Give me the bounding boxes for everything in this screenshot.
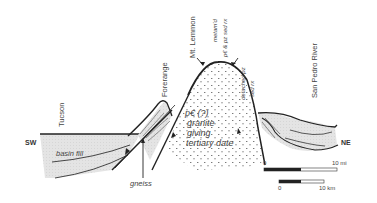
label-ne: NE bbox=[341, 139, 351, 146]
cross-section-diagram: SW NE Tucson Forerange Mt. Lemmon San Pe… bbox=[0, 0, 377, 203]
label-detached-1: detached pz bbox=[240, 67, 246, 100]
scale-bar-km bbox=[279, 180, 324, 183]
scale-bar-miles bbox=[264, 168, 337, 171]
granite-core bbox=[165, 62, 265, 170]
label-core-1: p€ (?) bbox=[185, 108, 209, 118]
detached-sediments bbox=[258, 113, 338, 151]
basin-fill-sw bbox=[40, 134, 140, 178]
label-core-2: granite bbox=[187, 118, 215, 128]
scale-km-start: 0 bbox=[278, 185, 281, 191]
label-gneiss: gneiss bbox=[130, 180, 152, 188]
label-core-3: giving bbox=[187, 128, 211, 138]
label-metamorphosed-1: metam'd bbox=[212, 19, 218, 42]
label-forerange: Forerange bbox=[161, 62, 169, 97]
scale-miles-start: 0 bbox=[263, 160, 266, 166]
label-mt-lemmon: Mt. Lemmon bbox=[189, 16, 197, 58]
label-tucson: Tucson bbox=[58, 103, 66, 127]
scale-km-end: 10 km bbox=[319, 185, 335, 191]
label-basin-fill: basin fill bbox=[56, 150, 83, 158]
label-san-pedro-river: San Pedro River bbox=[311, 43, 319, 98]
label-core-4: tertiary date bbox=[186, 138, 234, 148]
label-detached-2: sed rx bbox=[249, 81, 255, 97]
scale-miles-end: 10 mi bbox=[332, 160, 347, 166]
label-sw: SW bbox=[25, 139, 36, 146]
forerange-gneiss bbox=[128, 101, 172, 160]
label-metamorphosed-2: p€ & pz sed rx bbox=[222, 19, 228, 57]
